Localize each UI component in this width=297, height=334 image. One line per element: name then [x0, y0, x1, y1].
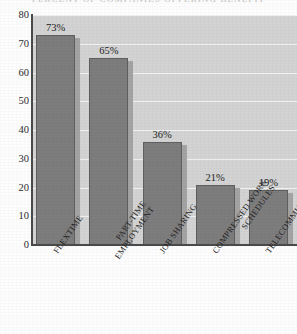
y-axis-tick-label: 20 — [3, 183, 29, 193]
chart-page: PERCENT OF COMPANIES OFFERING BENEFIT 80… — [0, 0, 297, 334]
bar — [89, 58, 128, 245]
bar-value-label: 65% — [75, 45, 142, 56]
y-axis-tick-label: 80 — [3, 10, 29, 20]
chart-title-text: PERCENT OF COMPANIES OFFERING BENEFIT — [32, 0, 265, 4]
y-axis-tick-label: 40 — [3, 125, 29, 135]
y-axis-tick-label: 10 — [3, 211, 29, 221]
y-axis-tick-label: 50 — [3, 96, 29, 106]
bar — [36, 35, 75, 245]
chart-title-cropped: PERCENT OF COMPANIES OFFERING BENEFIT — [0, 0, 297, 4]
y-axis-tick-label: 60 — [3, 68, 29, 78]
bar-fill — [36, 35, 75, 245]
x-axis-category-labels: FLEXTIMEPART-TIMEEMPLOYMENTJOB SHARINGCO… — [0, 246, 297, 334]
gridline — [31, 15, 297, 16]
bar-value-label: 36% — [129, 129, 196, 140]
bar-value-label: 73% — [31, 22, 89, 33]
y-axis-tick-label: 70 — [3, 39, 29, 49]
bar-fill — [89, 58, 128, 245]
y-axis-tick-label: 30 — [3, 154, 29, 164]
y-axis-line — [31, 14, 33, 246]
